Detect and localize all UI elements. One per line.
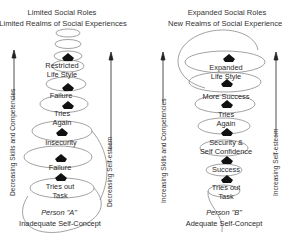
stage-label: Tries outTask [212, 184, 240, 201]
stage-label: ExpandedLife Style [209, 64, 242, 81]
person-a-self-concept: Inadequate Self-Concept [19, 220, 101, 229]
panel-b-left-axis-label: Increasing Skills and Competencies [160, 99, 167, 203]
panel-a-top-title: Limited Social Roles [28, 9, 97, 18]
panel-b-right-axis-label: Increasing Self-esteem [272, 129, 279, 196]
stage-label: Success [212, 166, 240, 175]
stage-label: More Success [203, 93, 250, 102]
panel-a-left-axis-label: Decreasing Skills and Competencies [9, 89, 16, 196]
person-b-self-concept: Adequate Self-Concept [186, 220, 262, 229]
stage-markers [55, 53, 235, 183]
panel-a-right-axis-label: Decreasing Self-esteem [106, 137, 113, 207]
panel-b-sub-title: New Realms of Social Experiences [168, 20, 282, 29]
panel-a-sub-title: Limited Realms of Social Experiences [0, 20, 127, 29]
stage-label: RestrictedLife Style [45, 62, 78, 79]
stage-label: Security &Self Confidence [200, 139, 252, 156]
spiral-b [178, 30, 265, 232]
stage-label: Failure [50, 92, 73, 101]
panel-b-top-title: Expanded Social Roles [188, 9, 267, 18]
person-a-label: Person "A" [41, 209, 77, 218]
stage-label: Insecurity [45, 139, 77, 148]
stage-label: TriesAgain [53, 110, 72, 127]
spiral-diagram [0, 0, 282, 243]
stage-label: Tries outTask [46, 183, 74, 200]
stage-label: TriesAgain [217, 111, 236, 128]
stage-label: Failure [49, 164, 72, 173]
person-b-label: Person "B" [206, 209, 242, 218]
